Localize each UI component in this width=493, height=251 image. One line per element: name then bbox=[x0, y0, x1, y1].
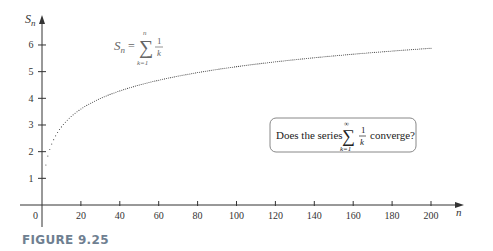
x-tick-label: 140 bbox=[307, 210, 322, 221]
y-tick-label: 5 bbox=[29, 66, 34, 77]
y-ticks: 123456 bbox=[29, 39, 47, 183]
y-tick-label: 6 bbox=[29, 39, 34, 50]
y-axis-label: Sn bbox=[25, 12, 36, 28]
svg-text:∑: ∑ bbox=[342, 126, 355, 146]
svg-text:k: k bbox=[157, 48, 162, 58]
harmonic-partial-sums-chart: n Sn 0 20406080100120140160180200 123456… bbox=[0, 0, 493, 251]
x-tick-label: 40 bbox=[115, 210, 125, 221]
x-tick-label: 200 bbox=[424, 210, 439, 221]
y-tick-label: 1 bbox=[29, 173, 34, 184]
x-axis-label: n bbox=[456, 206, 462, 218]
y-tick-label: 2 bbox=[29, 146, 34, 157]
svg-text:1: 1 bbox=[361, 125, 366, 135]
svg-text:∑: ∑ bbox=[139, 36, 153, 59]
y-tick-label: 3 bbox=[29, 119, 34, 130]
x-tick-label: 120 bbox=[268, 210, 283, 221]
figure-caption: FIGURE 9.25 bbox=[22, 233, 109, 247]
svg-text:k=1: k=1 bbox=[137, 59, 148, 67]
partial-sums-dotted-curve bbox=[43, 48, 431, 179]
svg-text:∞: ∞ bbox=[344, 120, 349, 128]
x-tick-label: 60 bbox=[154, 210, 164, 221]
svg-text:1: 1 bbox=[157, 36, 162, 46]
svg-text:converge?: converge? bbox=[370, 129, 415, 141]
y-tick-label: 4 bbox=[29, 93, 34, 104]
x-tick-label: 180 bbox=[385, 210, 400, 221]
x-ticks: 20406080100120140160180200 bbox=[76, 201, 439, 221]
svg-text:Sn: Sn bbox=[114, 38, 126, 55]
x-tick-label: 20 bbox=[76, 210, 86, 221]
partial-sum-formula: Sn = ∑ n k=1 1 k bbox=[114, 29, 163, 67]
x-tick-label: 80 bbox=[193, 210, 203, 221]
svg-text:Does the series: Does the series bbox=[276, 129, 343, 141]
x-tick-label: 100 bbox=[229, 210, 244, 221]
origin-label: 0 bbox=[33, 210, 38, 221]
x-tick-label: 160 bbox=[346, 210, 361, 221]
svg-text:n: n bbox=[143, 29, 147, 37]
svg-text:=: = bbox=[128, 39, 135, 53]
convergence-question-box: Does the series ∑ ∞ k=1 1 k converge? bbox=[270, 118, 416, 153]
svg-text:k=1: k=1 bbox=[340, 145, 351, 153]
y-axis-arrow-icon bbox=[39, 15, 45, 24]
